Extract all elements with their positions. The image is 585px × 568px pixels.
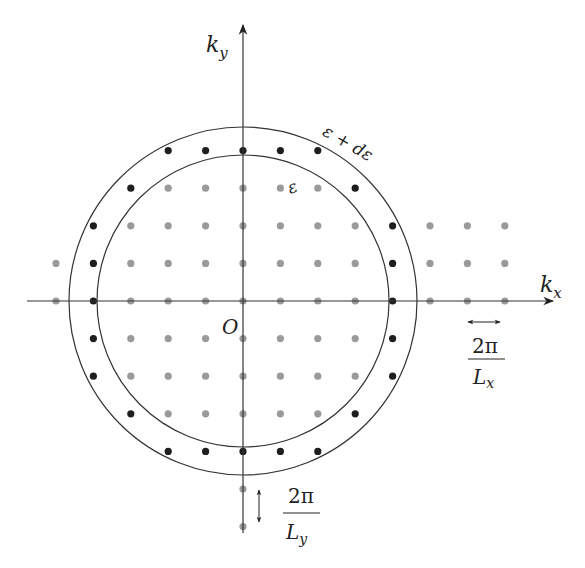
lattice-point — [127, 335, 134, 342]
lattice-point — [314, 410, 321, 417]
shell-lattice-point — [90, 222, 97, 229]
lattice-point — [165, 410, 172, 417]
shell-lattice-point — [389, 373, 396, 380]
lx-sub: x — [486, 375, 494, 391]
lattice-point — [127, 222, 134, 229]
lattice-point — [314, 260, 321, 267]
lattice-point — [202, 185, 209, 192]
lattice-point — [202, 335, 209, 342]
lattice-point — [52, 260, 59, 267]
shell-lattice-point — [202, 147, 209, 154]
lattice-point — [352, 222, 359, 229]
k-space-diagram: ky kx O ε ε + dε 2π Lx 2π Ly — [0, 0, 585, 568]
kx-label-sub: x — [553, 284, 562, 302]
shell-lattice-point — [90, 373, 97, 380]
shell-lattice-point — [314, 448, 321, 455]
lx-main: L — [472, 365, 486, 389]
lattice-point — [165, 185, 172, 192]
lattice-point — [165, 260, 172, 267]
lattice-point — [277, 410, 284, 417]
lattice-point — [202, 373, 209, 380]
shell-lattice-point — [352, 185, 359, 192]
lattice-point — [352, 373, 359, 380]
shell-lattice-point — [277, 448, 284, 455]
kx-label-main: k — [540, 272, 553, 297]
lattice-point — [165, 373, 172, 380]
origin-label: O — [222, 315, 238, 339]
x-spacing-denominator: Lx — [472, 365, 494, 391]
ky-axis-label: ky — [206, 32, 228, 62]
lattice-point — [314, 185, 321, 192]
shell-lattice-point — [389, 335, 396, 342]
lattice-point — [127, 373, 134, 380]
lattice-point — [352, 335, 359, 342]
x-spacing-numerator: 2π — [472, 334, 498, 358]
ky-label-main: k — [206, 32, 219, 57]
outer-circle-label: ε + dε — [320, 121, 377, 165]
lattice-dots — [52, 147, 508, 530]
lattice-point — [314, 373, 321, 380]
ly-sub: y — [298, 531, 308, 547]
ky-label-sub: y — [218, 44, 228, 62]
kx-axis-label: kx — [540, 272, 562, 302]
shell-lattice-point — [165, 448, 172, 455]
lattice-point — [314, 222, 321, 229]
ly-main: L — [285, 520, 299, 544]
lattice-point — [202, 222, 209, 229]
shell-lattice-point — [165, 147, 172, 154]
shell-lattice-point — [389, 222, 396, 229]
shell-lattice-point — [90, 335, 97, 342]
lattice-point — [127, 260, 134, 267]
inner-circle-label: ε — [284, 176, 299, 198]
shell-lattice-point — [127, 410, 134, 417]
shell-lattice-point — [277, 147, 284, 154]
lattice-point — [277, 373, 284, 380]
shell-lattice-point — [389, 260, 396, 267]
shell-lattice-point — [352, 410, 359, 417]
lattice-point — [426, 260, 433, 267]
shell-lattice-point — [314, 147, 321, 154]
lattice-point — [277, 260, 284, 267]
lattice-point — [501, 260, 508, 267]
lattice-point — [277, 335, 284, 342]
shell-lattice-point — [90, 260, 97, 267]
lattice-point — [314, 335, 321, 342]
lattice-point — [501, 222, 508, 229]
lattice-point — [202, 260, 209, 267]
lattice-point — [165, 222, 172, 229]
lattice-point — [464, 260, 471, 267]
lattice-point — [464, 222, 471, 229]
shell-lattice-point — [202, 448, 209, 455]
lattice-point — [277, 185, 284, 192]
lattice-point — [277, 222, 284, 229]
lattice-point — [426, 222, 433, 229]
lattice-point — [165, 335, 172, 342]
lattice-point — [352, 260, 359, 267]
y-spacing-denominator: Ly — [285, 520, 308, 547]
shell-lattice-point — [127, 185, 134, 192]
lattice-point — [202, 410, 209, 417]
y-spacing-numerator: 2π — [288, 484, 314, 508]
